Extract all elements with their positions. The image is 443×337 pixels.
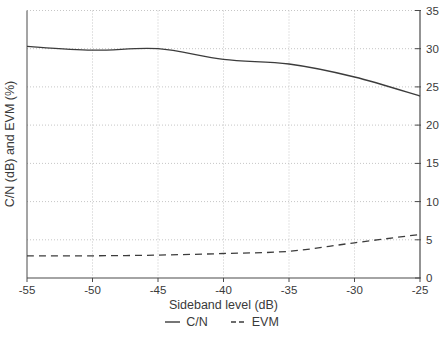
legend-label-evm: EVM: [252, 315, 279, 329]
y-tick-label: 35: [426, 5, 439, 17]
x-tick-label: -50: [84, 284, 101, 296]
x-axis-title: Sideband level (dB): [27, 298, 420, 312]
solid-line-icon: [164, 318, 181, 326]
y-tick-label: 20: [426, 119, 439, 131]
y-tick-label: 25: [426, 81, 439, 93]
y-tick-label: 10: [426, 196, 439, 208]
dashed-line-icon: [230, 318, 247, 326]
x-tick-label: -25: [412, 284, 429, 296]
y-tick-label: 5: [426, 234, 432, 246]
y-axis-title: C/N (dB) and EVM (%): [3, 81, 17, 207]
x-tick-label: -55: [19, 284, 36, 296]
x-tick-label: -30: [346, 284, 363, 296]
legend-item-evm: EVM: [230, 315, 279, 329]
y-tick-label: 15: [426, 157, 439, 169]
legend: C/N EVM: [0, 315, 443, 329]
x-tick-label: -35: [281, 284, 298, 296]
y-tick-label: 30: [426, 43, 439, 55]
plot-area: -55-50-45-40-35-30-2505101520253035: [0, 0, 443, 337]
x-tick-label: -40: [215, 284, 232, 296]
legend-item-cn: C/N: [164, 315, 208, 329]
y-tick-label: 0: [426, 272, 432, 284]
x-tick-label: -45: [150, 284, 167, 296]
legend-label-cn: C/N: [186, 315, 208, 329]
chart-figure: -55-50-45-40-35-30-2505101520253035 C/N …: [0, 0, 443, 337]
